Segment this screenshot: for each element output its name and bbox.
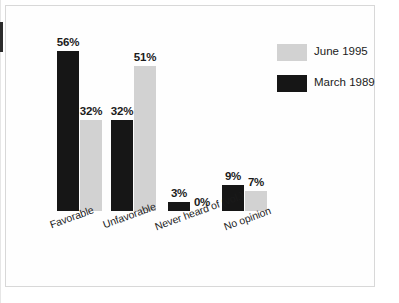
bar-value-label-unfavorable-june-1995: 51% — [128, 51, 162, 63]
bar-unfavorable-march-1989[interactable] — [111, 120, 133, 211]
bar-value-label-no-opinion-june-1995: 7% — [239, 176, 273, 188]
legend-label-june-1995: June 1995 — [314, 45, 368, 57]
bar-favorable-june-1995[interactable] — [80, 120, 102, 211]
bar-unfavorable-june-1995[interactable] — [134, 66, 156, 211]
legend-swatch-june-1995 — [277, 44, 307, 61]
bar-favorable-march-1989[interactable] — [57, 51, 79, 211]
figure-canvas: 56%32%32%51%3%0%9%7%FavorableUnfavorable… — [0, 0, 399, 303]
bar-value-label-favorable-june-1995: 32% — [74, 105, 108, 117]
bar-value-label-favorable-march-1989: 56% — [51, 36, 85, 48]
legend-label-march-1989: March 1989 — [314, 76, 375, 88]
legend-swatch-march-1989 — [277, 75, 307, 92]
